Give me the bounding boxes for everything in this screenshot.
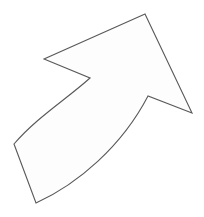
drawing-canvas <box>0 0 204 217</box>
curved-arrow-graphic <box>0 0 204 217</box>
